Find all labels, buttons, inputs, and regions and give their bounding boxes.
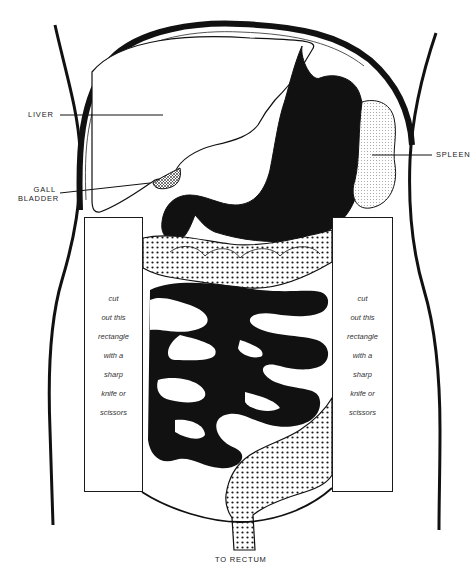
cut-out-rectangle-right: cut out this rectangle with a sharp knif…: [332, 217, 393, 492]
cut-instructions-left: cut out this rectangle with a sharp knif…: [85, 289, 142, 422]
abdomen-diagram: cut out this rectangle with a sharp knif…: [0, 0, 476, 582]
cut-text-line: with a: [85, 346, 142, 365]
cut-text-line: out this: [85, 308, 142, 327]
cut-text-line: scissors: [333, 403, 392, 422]
body-outline-left: [49, 25, 80, 525]
cut-text-line: sharp: [85, 365, 142, 384]
anatomy-artwork: [0, 0, 476, 582]
cut-out-rectangle-left: cut out this rectangle with a sharp knif…: [84, 217, 143, 492]
gall-bladder-label-line1: GALL: [18, 185, 56, 194]
spleen-label: SPLEEN: [436, 150, 470, 159]
gall-bladder-label: GALL BLADDER: [18, 185, 56, 203]
cut-text-line: out this: [333, 308, 392, 327]
body-outline-right: [410, 33, 440, 530]
liver-label: LIVER: [28, 110, 54, 119]
cut-text-line: rectangle: [333, 327, 392, 346]
cut-text-line: rectangle: [85, 327, 142, 346]
cut-text-line: cut: [85, 289, 142, 308]
cut-text-line: cut: [333, 289, 392, 308]
cut-text-line: scissors: [85, 403, 142, 422]
cut-text-line: sharp: [333, 365, 392, 384]
cut-text-line: knife or: [85, 384, 142, 403]
gall-bladder-label-line2: BLADDER: [18, 194, 56, 203]
cut-text-line: knife or: [333, 384, 392, 403]
rectum-label: TO RECTUM: [215, 555, 267, 564]
cut-instructions-right: cut out this rectangle with a sharp knif…: [333, 289, 392, 422]
transverse-colon: [143, 230, 332, 288]
cut-text-line: with a: [333, 346, 392, 365]
